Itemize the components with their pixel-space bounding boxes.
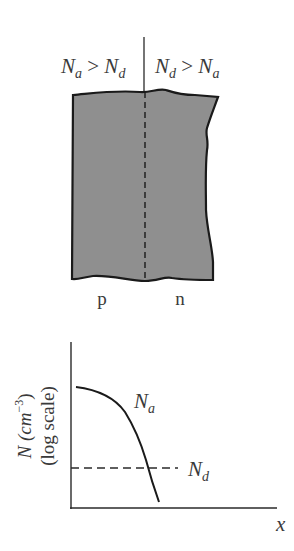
left-condition-label: Na > Nd	[60, 54, 126, 81]
right-condition-label: Nd > Na	[154, 54, 219, 81]
doping-profile-graph: Na Nd N (cm−3) (log scale) x	[12, 342, 286, 536]
x-axis-label: x	[275, 512, 286, 536]
semiconductor-block	[72, 90, 218, 281]
y-axis-label-line1: N (cm−3)	[12, 393, 36, 459]
pn-junction-figure: Na > Nd Nd > Na p n Na Nd N (cm−3) (log …	[0, 0, 294, 551]
n-region-label: n	[175, 288, 185, 309]
y-axis-label-line2: (log scale)	[37, 386, 59, 466]
nd-line-label: Nd	[187, 457, 210, 484]
p-region-label: p	[97, 288, 107, 309]
na-curve-label: Na	[133, 389, 155, 416]
